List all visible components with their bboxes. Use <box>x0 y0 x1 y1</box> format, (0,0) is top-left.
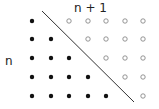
filled-dot <box>30 19 34 23</box>
filled-dot <box>67 56 71 60</box>
filled-dot <box>49 94 53 98</box>
filled-dot <box>30 37 34 41</box>
filled-dot <box>86 75 90 79</box>
hollow-dot <box>123 56 127 60</box>
filled-dot <box>49 75 53 79</box>
filled-dot <box>49 37 53 41</box>
hollow-dot <box>141 56 145 60</box>
filled-dot <box>49 56 53 60</box>
hollow-dot <box>123 37 127 41</box>
hollow-dot <box>104 19 108 23</box>
hollow-dot <box>141 37 145 41</box>
hollow-dot <box>86 19 90 23</box>
filled-dot <box>104 94 108 98</box>
hollow-dot <box>123 75 127 79</box>
filled-dot <box>30 56 34 60</box>
hollow-dot <box>104 56 108 60</box>
hollow-dot <box>67 19 71 23</box>
diagonal-divider-line <box>42 11 134 102</box>
hollow-dot <box>86 37 90 41</box>
filled-dot <box>30 75 34 79</box>
hollow-dot <box>141 94 145 98</box>
hollow-dot <box>123 19 127 23</box>
filled-dot <box>67 94 71 98</box>
filled-dot <box>67 75 71 79</box>
hollow-dot <box>141 75 145 79</box>
hollow-dot <box>104 37 108 41</box>
triangular-dot-diagram <box>0 0 159 109</box>
filled-dot <box>86 94 90 98</box>
filled-dot <box>30 94 34 98</box>
hollow-dot <box>141 19 145 23</box>
